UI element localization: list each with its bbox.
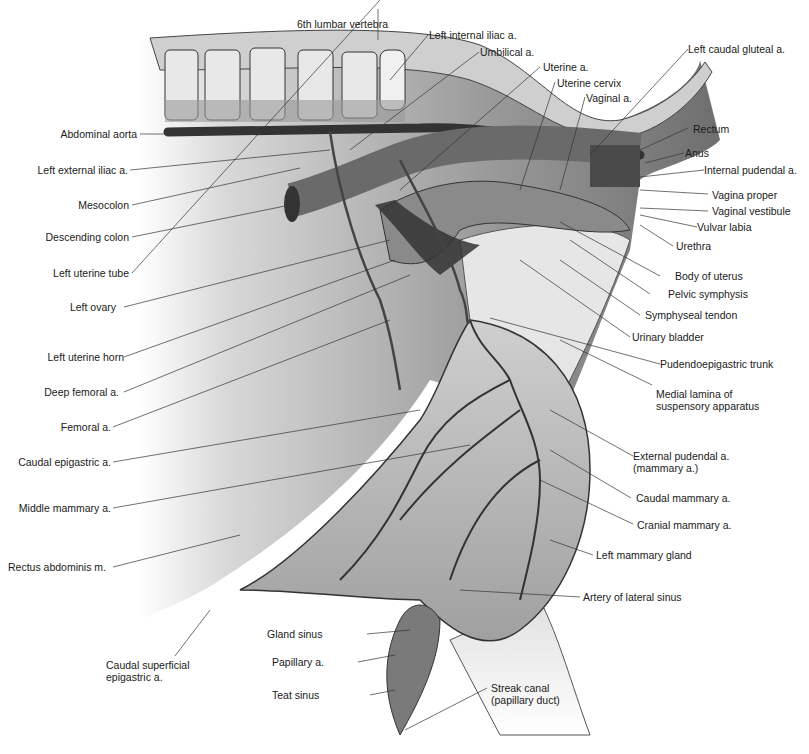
label-left-uterine-tube: Left uterine tube [53,267,129,279]
label-vaginal-a: Vaginal a. [586,92,632,104]
label-streak-canal: Streak canal (papillary duct) [491,682,560,706]
label-external-pudendal: External pudendal a. (mammary a.) [633,450,729,474]
label-pudendoepigastric-trunk: Pudendoepigastric trunk [660,358,773,370]
label-left-ovary: Left ovary [70,301,116,313]
label-body-of-uterus: Body of uterus [675,270,743,282]
label-anus: Anus [685,147,709,159]
label-symphyseal-tendon: Symphyseal tendon [645,309,737,321]
label-abdominal-aorta: Abdominal aorta [61,128,137,140]
label-internal-pudendal: Internal pudendal a. [704,164,797,176]
label-rectus-abdominis: Rectus abdominis m. [8,561,106,573]
label-femoral: Femoral a. [61,421,111,433]
label-teat-sinus: Teat sinus [272,689,319,701]
label-caudal-mammary: Caudal mammary a. [636,492,731,504]
label-gland-sinus: Gland sinus [267,628,322,640]
label-papillary-a: Papillary a. [272,656,324,668]
label-urinary-bladder: Urinary bladder [632,331,704,343]
label-caudal-epigastric: Caudal epigastric a. [18,456,111,468]
teat [387,605,440,735]
label-caudal-superficial-epigastric: Caudal superficial epigastric a. [106,659,189,683]
label-vulvar-labia: Vulvar labia [697,221,751,233]
rectum [590,145,640,187]
anatomy-illustration [0,0,809,754]
label-vagina-proper: Vagina proper [712,189,777,201]
label-uterine-a: Uterine a. [543,61,589,73]
label-umbilical: Umbilical a. [480,46,534,58]
label-artery-lateral-sinus: Artery of lateral sinus [583,591,682,603]
label-pelvic-symphysis: Pelvic symphysis [668,288,748,300]
label-left-internal-iliac: Left internal iliac a. [429,29,517,41]
label-middle-mammary: Middle mammary a. [19,502,111,514]
label-deep-femoral: Deep femoral a. [44,386,119,398]
label-rectum: Rectum [693,123,729,135]
label-medial-lamina: Medial lamina of suspensory apparatus [656,388,759,412]
label-urethra: Urethra [676,240,711,252]
label-cranial-mammary: Cranial mammary a. [637,519,732,531]
label-vaginal-vestibule: Vaginal vestibule [712,205,791,217]
label-sixth-lumbar-vertebra: 6th lumbar vertebra [297,18,388,30]
label-uterine-cervix: Uterine cervix [557,77,621,89]
label-mesocolon: Mesocolon [78,199,129,211]
label-left-external-iliac: Left external iliac a. [38,164,128,176]
label-descending-colon: Descending colon [46,231,129,243]
label-left-mammary-gland: Left mammary gland [596,549,692,561]
label-left-caudal-gluteal: Left caudal gluteal a. [688,43,785,55]
anatomy-figure: Abdominal aorta Left external iliac a. M… [0,0,809,754]
label-left-uterine-horn: Left uterine horn [48,351,124,363]
